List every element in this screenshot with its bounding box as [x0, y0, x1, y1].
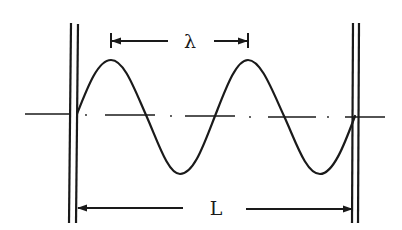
equilibrium-axis [25, 114, 385, 118]
left-wall [69, 23, 78, 223]
length-label: L [210, 197, 223, 219]
wavelength-label: λ [184, 30, 196, 52]
wavelength-dimension [111, 33, 248, 48]
standing-wave-diagram: λ L [0, 0, 402, 230]
